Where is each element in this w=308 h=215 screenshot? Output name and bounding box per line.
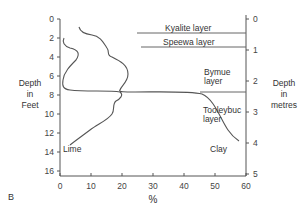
right-tick-label: 3 — [253, 107, 258, 117]
kyalite-layer-label: Kyalite layer — [165, 23, 211, 33]
left-tick-label: 14 — [45, 147, 55, 157]
tooleybuc-layer-label-2: layer — [203, 114, 222, 124]
lime-curve — [63, 38, 122, 145]
depth-profile-chart: 0246810121416 0102030405060 012345 Kyali… — [0, 0, 308, 215]
left-tick-label: 8 — [49, 90, 54, 100]
right-tick-label: 5 — [253, 169, 258, 179]
left-axis-feet: 0246810121416 — [45, 14, 60, 176]
right-axis-title-1: Depth — [273, 78, 296, 88]
left-axis-title-3: Feet — [21, 100, 39, 110]
left-axis-title-1: Depth — [19, 78, 42, 88]
right-tick-label: 0 — [253, 14, 258, 24]
x-axis-title: % — [149, 194, 158, 205]
panel-label: B — [8, 192, 14, 202]
x-tick-label: 60 — [241, 181, 251, 191]
x-tick-label: 10 — [86, 181, 96, 191]
right-axis-metres: 012345 — [246, 14, 258, 179]
clay-label: Clay — [210, 144, 228, 154]
left-axis-title-2: in — [27, 89, 34, 99]
x-axis-percent: 0102030405060 — [58, 173, 251, 191]
lime-label: Lime — [63, 144, 82, 154]
left-tick-label: 10 — [45, 109, 55, 119]
left-tick-label: 16 — [45, 166, 55, 176]
right-axis-title-3: metres — [271, 100, 297, 110]
bymue-layer-label-2: layer — [204, 76, 223, 86]
left-tick-label: 0 — [49, 14, 54, 24]
speewa-layer-label: Speewa layer — [163, 37, 215, 47]
x-tick-label: 30 — [148, 181, 158, 191]
x-tick-label: 50 — [210, 181, 220, 191]
left-tick-label: 2 — [49, 33, 54, 43]
x-tick-label: 40 — [179, 181, 189, 191]
right-tick-label: 1 — [253, 45, 258, 55]
right-axis-title-2: in — [281, 89, 288, 99]
x-tick-label: 0 — [58, 181, 63, 191]
right-tick-label: 2 — [253, 76, 258, 86]
left-tick-label: 6 — [49, 71, 54, 81]
left-tick-label: 12 — [45, 128, 55, 138]
right-tick-label: 4 — [253, 138, 258, 148]
x-tick-label: 20 — [117, 181, 127, 191]
left-tick-label: 4 — [49, 52, 54, 62]
